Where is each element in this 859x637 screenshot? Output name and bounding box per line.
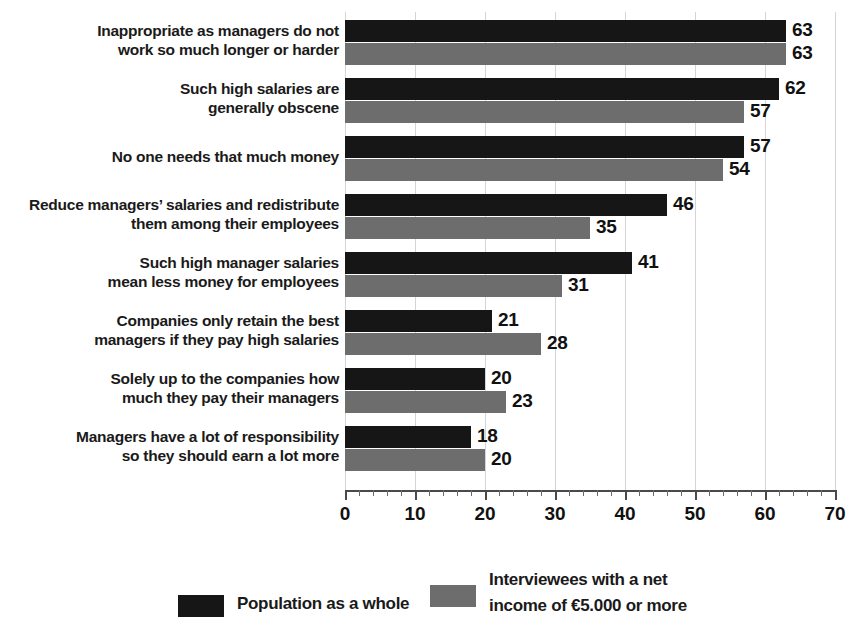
- tick-label-40: 40: [614, 503, 635, 525]
- tick-minor: [583, 490, 584, 496]
- bar-series-a[interactable]: [345, 426, 471, 448]
- category-label: Solely up to the companies howmuch they …: [3, 369, 339, 407]
- tick-minor: [723, 490, 724, 496]
- tick-minor: [513, 490, 514, 496]
- tick-minor: [709, 490, 710, 496]
- tick-major-50: [695, 490, 697, 500]
- bar-series-a[interactable]: [345, 78, 779, 100]
- axis-line: [345, 490, 835, 492]
- category-label: Such high salaries aregenerally obscene: [3, 79, 339, 117]
- bar-value-label: 57: [750, 135, 771, 157]
- tick-minor: [611, 490, 612, 496]
- bar-series-b[interactable]: [345, 43, 786, 65]
- tick-minor: [793, 490, 794, 496]
- bar-value-label: 31: [568, 274, 589, 296]
- bar-row-group: 4635: [345, 192, 835, 250]
- tick-label-0: 0: [340, 503, 351, 525]
- bar-series-b[interactable]: [345, 391, 506, 413]
- tick-minor: [527, 490, 528, 496]
- tick-minor: [541, 490, 542, 496]
- bar-series-b[interactable]: [345, 159, 723, 181]
- legend-item-population-as-a-whole[interactable]: Population as a whole: [178, 573, 409, 617]
- bar-row-group: 4131: [345, 250, 835, 308]
- legend-swatch-series-b: [430, 585, 476, 607]
- tick-label-20: 20: [474, 503, 495, 525]
- bar-series-b[interactable]: [345, 275, 562, 297]
- tick-major-30: [555, 490, 557, 500]
- tick-major-0: [345, 490, 347, 500]
- tick-minor: [443, 490, 444, 496]
- bar-series-b[interactable]: [345, 449, 485, 471]
- legend-item-high-income-interviewees[interactable]: Interviewees with a net income of €5.000…: [430, 555, 687, 619]
- x-axis: 010203040506070: [345, 490, 835, 530]
- category-label: Such high manager salariesmean less mone…: [3, 253, 339, 291]
- bar-value-label: 63: [792, 19, 813, 41]
- tick-minor: [471, 490, 472, 496]
- tick-major-70: [835, 490, 837, 500]
- bar-series-b[interactable]: [345, 217, 590, 239]
- bar-value-label: 54: [729, 158, 750, 180]
- category-label: Companies only retain the bestmanagers i…: [3, 311, 339, 349]
- bar-series-a[interactable]: [345, 194, 667, 216]
- bar-value-label: 62: [785, 77, 806, 99]
- tick-minor: [457, 490, 458, 496]
- legend-label-series-b: Interviewees with a net income of €5.000…: [489, 555, 687, 619]
- tick-minor: [807, 490, 808, 496]
- tick-minor: [373, 490, 374, 496]
- category-label: Inappropriate as managers do notwork so …: [3, 21, 339, 59]
- category-label: Reduce managers’ salaries and redistribu…: [3, 195, 339, 233]
- bar-series-a[interactable]: [345, 368, 485, 390]
- tick-label-70: 70: [824, 503, 845, 525]
- tick-minor: [821, 490, 822, 496]
- bar-value-label: 63: [792, 42, 813, 64]
- bar-series-b[interactable]: [345, 101, 744, 123]
- bar-chart: Inappropriate as managers do notwork so …: [0, 0, 859, 530]
- bar-value-label: 28: [547, 332, 568, 354]
- bar-row-group: 6363: [345, 18, 835, 76]
- tick-minor: [401, 490, 402, 496]
- bar-value-label: 21: [498, 309, 519, 331]
- bar-value-label: 18: [477, 425, 498, 447]
- tick-major-40: [625, 490, 627, 500]
- bar-value-label: 46: [673, 193, 694, 215]
- bar-value-label: 23: [512, 390, 533, 412]
- bar-row-group: 2128: [345, 308, 835, 366]
- bar-value-label: 20: [491, 367, 512, 389]
- tick-label-60: 60: [754, 503, 775, 525]
- chart-legend: Population as a whole Interviewees with …: [0, 555, 859, 637]
- tick-label-10: 10: [404, 503, 425, 525]
- bar-series-b[interactable]: [345, 333, 541, 355]
- bar-series-a[interactable]: [345, 136, 744, 158]
- bar-value-label: 20: [491, 448, 512, 470]
- legend-label-series-a: Population as a whole: [237, 573, 409, 617]
- tick-major-10: [415, 490, 417, 500]
- category-label-column: Inappropriate as managers do notwork so …: [0, 12, 339, 490]
- tick-major-60: [765, 490, 767, 500]
- tick-minor: [639, 490, 640, 496]
- tick-minor: [681, 490, 682, 496]
- bar-series-a[interactable]: [345, 310, 492, 332]
- tick-minor: [597, 490, 598, 496]
- bar-row-group: 2023: [345, 366, 835, 424]
- tick-minor: [667, 490, 668, 496]
- category-label: Managers have a lot of responsibilityso …: [3, 427, 339, 465]
- bar-value-label: 41: [638, 251, 659, 273]
- tick-minor: [779, 490, 780, 496]
- bar-value-label: 57: [750, 100, 771, 122]
- tick-minor: [387, 490, 388, 496]
- tick-major-20: [485, 490, 487, 500]
- tick-label-30: 30: [544, 503, 565, 525]
- tick-minor: [653, 490, 654, 496]
- bar-series-a[interactable]: [345, 20, 786, 42]
- tick-minor: [429, 490, 430, 496]
- tick-minor: [751, 490, 752, 496]
- bar-series-a[interactable]: [345, 252, 632, 274]
- category-label: No one needs that much money: [3, 147, 339, 166]
- tick-minor: [569, 490, 570, 496]
- tick-minor: [737, 490, 738, 496]
- bar-row-group: 6257: [345, 76, 835, 134]
- bar-row-group: 1820: [345, 424, 835, 482]
- tick-minor: [499, 490, 500, 496]
- tick-label-50: 50: [684, 503, 705, 525]
- bar-value-label: 35: [596, 216, 617, 238]
